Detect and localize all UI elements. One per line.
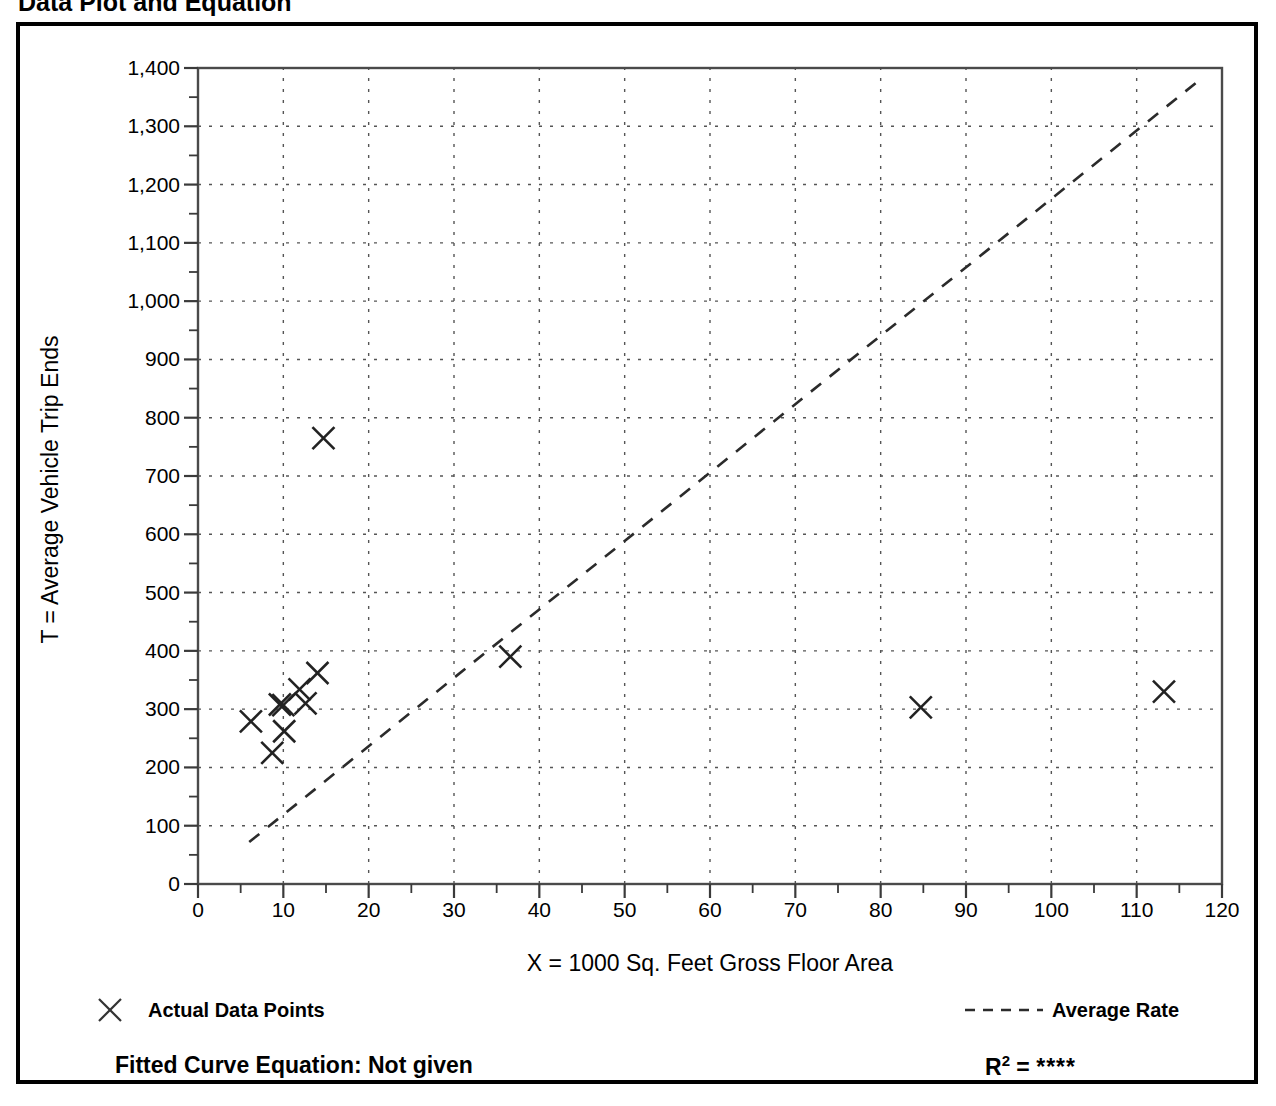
r-squared-symbol: R (985, 1054, 1002, 1080)
r-squared-equals: = (1010, 1054, 1036, 1080)
r-squared-annotation: R2 = **** (985, 1052, 1076, 1081)
legend-marker-x-icon (99, 999, 121, 1021)
legend-item-average-rate: Average Rate (1052, 999, 1179, 1022)
fitted-curve-equation: Fitted Curve Equation: Not given (115, 1052, 473, 1079)
r-squared-exponent: 2 (1002, 1052, 1010, 1069)
chart-plot-area: 01002003004005006007008009001,0001,1001,… (0, 0, 1276, 1106)
legend-markers (0, 0, 1276, 1106)
r-squared-value: **** (1036, 1054, 1076, 1080)
legend-item-actual-data-points: Actual Data Points (148, 999, 325, 1022)
